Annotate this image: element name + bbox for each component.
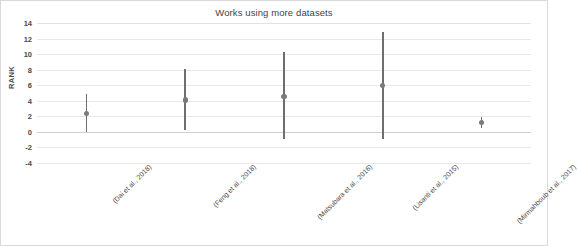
- x-tick-label: (Dai et al., 2018): [112, 163, 154, 205]
- x-tick-label: (Mirmahboub et al., 2017): [515, 163, 577, 225]
- y-tick-label-6: 6: [28, 81, 32, 90]
- x-tick-label-text: (Lisanti et al., 2015): [411, 163, 459, 211]
- plot-area: 14121086420-2-4: [37, 23, 531, 163]
- y-tick-label-4: 4: [28, 96, 32, 105]
- x-tick-label-text: (Dai et al., 2018): [112, 163, 154, 205]
- y-tick-label--2: -2: [25, 143, 32, 152]
- gridline-14: [37, 23, 531, 24]
- x-tick-label-text: (Matsubara et al., 2016): [316, 163, 374, 221]
- y-tick-label-12: 12: [24, 34, 32, 43]
- x-tick-label-text: (Mirmahboub et al., 2017): [515, 163, 577, 225]
- data-point-marker: [479, 120, 484, 125]
- y-tick-label-2: 2: [28, 112, 32, 121]
- data-point-marker: [281, 94, 286, 99]
- y-tick-label-8: 8: [28, 65, 32, 74]
- data-point-marker: [380, 83, 385, 88]
- chart-title: Works using more datasets: [1, 7, 547, 18]
- x-tick-label: (Matsubara et al., 2016): [316, 163, 374, 221]
- y-axis-label: RANK: [7, 66, 16, 89]
- y-tick-label-10: 10: [24, 50, 32, 59]
- data-point-marker: [183, 97, 188, 102]
- gridline-12: [37, 39, 531, 40]
- y-tick-label-14: 14: [24, 19, 32, 28]
- y-tick-label-0: 0: [28, 127, 32, 136]
- x-tick-label: (Lisanti et al., 2015): [411, 163, 459, 211]
- x-tick-label: (Feng et al., 2018): [212, 163, 257, 208]
- gridline--2: [37, 147, 531, 148]
- x-tick-label-text: (Feng et al., 2018): [212, 163, 257, 208]
- x-axis-labels: (Dai et al., 2018)(Feng et al., 2018)(Ma…: [37, 163, 531, 246]
- y-tick-label--4: -4: [25, 159, 32, 168]
- data-point-marker: [84, 111, 89, 116]
